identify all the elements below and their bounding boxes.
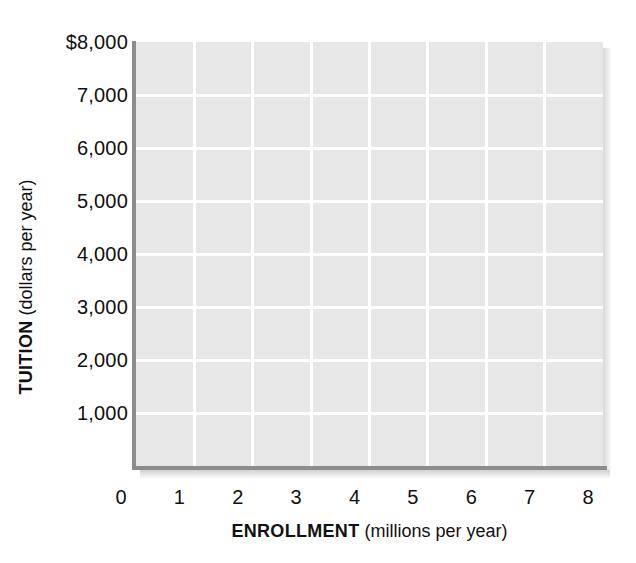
x-tick-label: 1 [159, 487, 199, 507]
y-axis-title-bold: TUITION [16, 320, 36, 394]
x-tick-label: 6 [451, 487, 491, 507]
x-tick-label: 4 [335, 487, 375, 507]
panel-shadow-bottom [140, 470, 610, 479]
gridline-vertical [543, 42, 546, 466]
panel-shadow-right [603, 48, 612, 470]
y-axis-title-units: (dollars per year) [16, 179, 36, 320]
y-tick-label: 7,000 [2, 85, 128, 105]
gridline-vertical [368, 42, 371, 466]
gridline-vertical [426, 42, 429, 466]
x-tick-label: 2 [218, 487, 258, 507]
x-axis-title-bold: ENROLLMENT [231, 521, 359, 541]
plot-area [136, 42, 603, 466]
chart-figure: $8,0007,0006,0005,0004,0003,0002,0001,00… [0, 0, 636, 563]
gridline-vertical [193, 42, 196, 466]
x-tick-label: 0 [101, 487, 141, 507]
y-axis-spine [132, 41, 136, 470]
x-tick-label: 5 [393, 487, 433, 507]
gridline-vertical [310, 42, 313, 466]
y-axis-title: TUITION (dollars per year) [16, 142, 36, 432]
x-tick-label: 7 [510, 487, 550, 507]
y-tick-label: $8,000 [2, 32, 128, 52]
gridline-vertical [485, 42, 488, 466]
gridline-vertical [251, 42, 254, 466]
x-tick-label: 3 [276, 487, 316, 507]
x-axis-title-units: (millions per year) [359, 521, 507, 541]
x-tick-label: 8 [568, 487, 608, 507]
x-axis-title: ENROLLMENT (millions per year) [136, 521, 603, 541]
